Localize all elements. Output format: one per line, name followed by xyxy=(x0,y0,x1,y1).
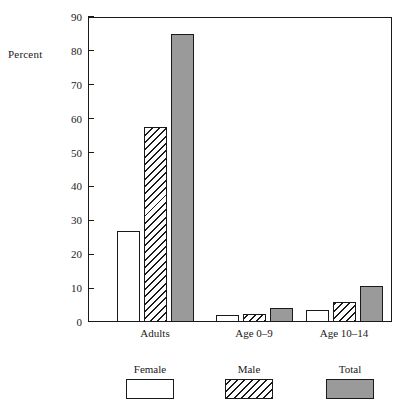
bar-age-10-14-total xyxy=(360,286,383,322)
bar-adults-total xyxy=(171,34,194,322)
x-axis-label-3: Age 10–14 xyxy=(320,327,369,339)
y-axis-tick xyxy=(88,321,94,322)
bar-adults-male xyxy=(144,127,167,322)
legend-swatch-male xyxy=(225,379,273,399)
legend-swatch-total xyxy=(326,379,374,399)
y-axis-tick-label: 70 xyxy=(58,79,82,91)
y-axis-tick-label: 10 xyxy=(58,282,82,294)
x-axis-label-1: Adults xyxy=(140,327,169,339)
bar-age-0-9-total xyxy=(270,308,293,322)
y-axis-tick-label: 40 xyxy=(58,180,82,192)
y-axis-tick-label: 80 xyxy=(58,45,82,57)
y-axis-tick-label: 50 xyxy=(58,147,82,159)
y-axis-tick xyxy=(88,84,94,85)
y-axis-tick xyxy=(88,220,94,221)
y-axis-title: Percent xyxy=(8,48,42,60)
y-axis-tick xyxy=(88,118,94,119)
bar-age-10-14-female xyxy=(306,310,329,322)
y-axis-tick xyxy=(88,186,94,187)
y-axis-tick xyxy=(88,152,94,153)
y-axis-tick-label: 30 xyxy=(58,214,82,226)
legend-label-female: Female xyxy=(107,362,193,376)
legend-label-total: Total xyxy=(307,362,393,376)
legend-label-male: Male xyxy=(206,362,292,376)
y-axis-tick-label: 20 xyxy=(58,248,82,260)
bar-adults-female xyxy=(117,231,140,323)
y-axis-tick xyxy=(88,288,94,289)
legend-swatch-female xyxy=(126,379,174,399)
y-axis-tick-label: 60 xyxy=(58,113,82,125)
y-axis-tick xyxy=(88,16,94,17)
y-axis-tick xyxy=(88,50,94,51)
y-axis-tick-label: 0 xyxy=(58,316,82,328)
chart-legend: FemaleMaleTotal xyxy=(88,362,392,410)
legend-item-female: Female xyxy=(107,362,193,399)
y-axis-tick xyxy=(88,254,94,255)
y-axis-tick-label: 90 xyxy=(58,11,82,23)
bar-age-0-9-male xyxy=(243,314,266,322)
bar-age-10-14-male xyxy=(333,302,356,322)
bar-age-0-9-female xyxy=(216,315,239,322)
legend-item-male: Male xyxy=(206,362,292,399)
legend-item-total: Total xyxy=(307,362,393,399)
x-axis-label-2: Age 0–9 xyxy=(235,327,273,339)
bar-chart-figure: Percent 0102030405060708090 AdultsAge 0–… xyxy=(0,0,419,415)
